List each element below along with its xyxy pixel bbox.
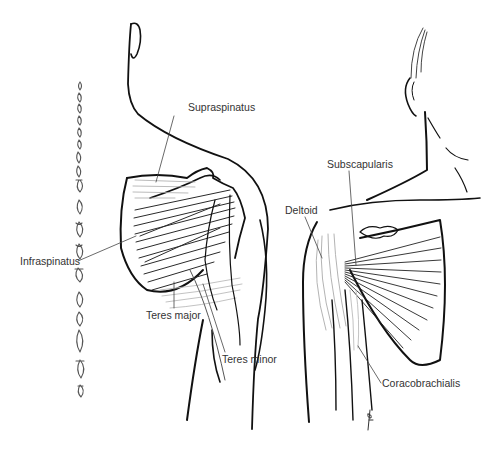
label-deltoid: Deltoid bbox=[285, 205, 318, 216]
label-coracobrachialis: Coracobrachialis bbox=[382, 378, 460, 389]
label-infraspinatus: Infraspinatus bbox=[20, 256, 80, 267]
label-teres-major: Teres major bbox=[146, 310, 201, 321]
posterior-view bbox=[121, 23, 268, 429]
label-teres-minor: Teres minor bbox=[222, 354, 277, 365]
anterior-view bbox=[303, 28, 480, 430]
anatomy-figure: Supraspinatus Infraspinatus Teres major … bbox=[0, 0, 488, 463]
label-subscapularis: Subscapularis bbox=[327, 159, 393, 170]
leader-teres-minor bbox=[203, 284, 225, 352]
leader-subscapularis bbox=[349, 171, 356, 265]
leader-infraspinatus bbox=[78, 236, 136, 261]
label-supraspinatus: Supraspinatus bbox=[188, 102, 255, 113]
leader-deltoid bbox=[305, 217, 322, 258]
vertebrae-column-doodle bbox=[75, 82, 84, 397]
illustration bbox=[0, 0, 488, 463]
leader-supraspinatus bbox=[156, 116, 174, 182]
